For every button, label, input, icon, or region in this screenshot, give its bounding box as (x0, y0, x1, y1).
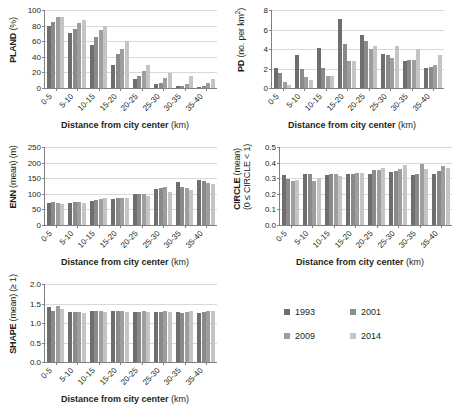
x-tick-mark (420, 225, 421, 228)
x-tick-label: 20-25 (346, 92, 367, 113)
bar-group: 35-40 (196, 10, 218, 88)
x-tick-label: 30-35 (389, 92, 410, 113)
x-tick-mark (412, 88, 413, 91)
bar (103, 198, 107, 225)
x-tick-label: 35-40 (419, 229, 440, 250)
y-tick-label: 0.5 (30, 338, 41, 347)
chart-legend: 1993200120092014 (284, 300, 434, 348)
bar-groups: 0-55-1010-1515-2020-2525-3030-3535-40 (45, 10, 217, 88)
bar (90, 201, 94, 225)
x-tick-label: 25-30 (376, 229, 397, 250)
bar (390, 58, 394, 88)
x-tick-label: 25-30 (141, 229, 162, 250)
x-tick-label: 10-15 (311, 229, 332, 250)
x-tick-mark (77, 225, 78, 228)
x-tick-label: 15-20 (325, 92, 346, 113)
x-tick-label: 5-10 (285, 92, 303, 110)
x-tick-mark (347, 88, 348, 91)
x-tick-mark (312, 225, 313, 228)
y-tick-label: 40 (32, 52, 41, 61)
bar (312, 181, 316, 225)
bar-group: 35-40 (196, 147, 218, 225)
plot-area-shape: 0.00.51.01.52.00-55-1010-1515-2020-2525-… (44, 284, 217, 363)
y-tick-label: 0 (37, 84, 41, 93)
bar (441, 166, 445, 225)
y-tick-label: 8 (264, 6, 268, 15)
x-tick-mark (163, 362, 164, 365)
bar (352, 61, 356, 88)
bar (346, 174, 350, 225)
x-tick-label: 20-25 (119, 92, 140, 113)
x-tick-mark (377, 225, 378, 228)
y-tick-mark (42, 225, 45, 226)
bar (137, 76, 141, 88)
bar (111, 311, 115, 362)
y-tick-label: 2.0 (30, 280, 41, 289)
bar (338, 176, 342, 225)
x-tick-label: 30-35 (162, 229, 183, 250)
bar (433, 65, 437, 88)
bar (330, 76, 334, 88)
bar-group: 30-35 (174, 147, 196, 225)
bar (154, 84, 158, 88)
y-axis-title-pd: PD (no. per km2) (229, 0, 251, 88)
bar (381, 168, 385, 225)
y-tick-label: 20 (32, 68, 41, 77)
y-tick-label: 200 (28, 158, 41, 167)
bar (94, 37, 98, 88)
y-tick-label: 4 (264, 45, 268, 54)
bar (73, 312, 77, 362)
bar (73, 202, 77, 225)
bar (68, 203, 72, 225)
bar-group: 30-35 (409, 147, 431, 225)
plot-area-enn: 0501001502002500-55-1010-1515-2020-2525-… (44, 147, 217, 226)
bar (438, 55, 442, 88)
bar-group: 5-10 (302, 147, 324, 225)
x-tick-mark (120, 225, 121, 228)
bar-group: 0-5 (280, 147, 302, 225)
x-tick-label: 25-30 (141, 92, 162, 113)
bar (377, 170, 381, 225)
bar (360, 173, 364, 225)
x-tick-mark (99, 225, 100, 228)
x-tick-mark (120, 362, 121, 365)
bar (185, 312, 189, 362)
bar (56, 203, 60, 225)
bar-group: 10-15 (88, 10, 110, 88)
y-axis-title-shape: SHAPE (mean) (≥ 1) (2, 266, 24, 362)
bar-group: 25-30 (153, 147, 175, 225)
bar-group: 15-20 (110, 10, 132, 88)
x-tick-mark (185, 88, 186, 91)
bar (176, 86, 180, 88)
x-tick-mark (326, 88, 327, 91)
x-tick-mark (398, 225, 399, 228)
x-tick-label: 20-25 (119, 366, 140, 387)
x-tick-label: 15-20 (98, 229, 119, 250)
bar (295, 55, 299, 88)
bar (116, 198, 120, 225)
x-tick-label: 5-10 (58, 366, 76, 384)
legend-item-2009: 2009 (284, 331, 350, 341)
y-axis-title-circle: CIRCLE (mean)(0 ≤ CIRCLE < 1) (231, 129, 253, 225)
x-axis-title-circle: Distance from city center (km) (265, 257, 454, 267)
bar (73, 29, 77, 88)
y-tick-label: 60 (32, 37, 41, 46)
bar (82, 20, 86, 88)
y-tick-mark (42, 88, 45, 89)
y-tick-label: 0.0 (30, 358, 41, 367)
x-tick-label: 30-35 (162, 366, 183, 387)
bar (372, 170, 376, 225)
bar (77, 23, 81, 88)
legend-item-2001: 2001 (350, 307, 416, 317)
bar (206, 311, 210, 362)
bar-group: 0-5 (272, 10, 294, 88)
bar (68, 312, 72, 362)
chart-panel-pland: PLAND (%)0204060801000-55-1010-1515-2020… (0, 2, 227, 139)
bar-group: 20-25 (131, 147, 153, 225)
bar-group: 10-15 (88, 147, 110, 225)
legend-item-1993: 1993 (284, 307, 350, 317)
y-tick-label: 150 (28, 174, 41, 183)
x-tick-label: 10-15 (76, 229, 97, 250)
bar (416, 49, 420, 88)
x-tick-label: 0-5 (275, 229, 290, 244)
